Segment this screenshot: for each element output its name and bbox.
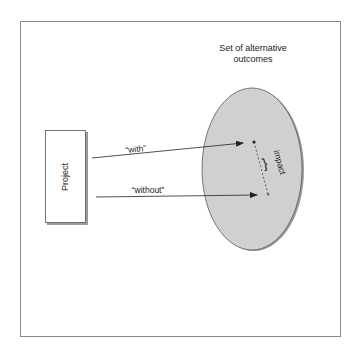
outcome-set-title-line2: outcomes [233,54,273,64]
diagram-canvas: Set of alternative outcomes Project “wit… [0,0,361,353]
project-label: Project [60,162,70,191]
outcome-set-title-line1: Set of alternative [219,43,287,53]
with-arrow-label: “with” [125,143,147,155]
without-arrow-label: “without” [132,185,165,195]
